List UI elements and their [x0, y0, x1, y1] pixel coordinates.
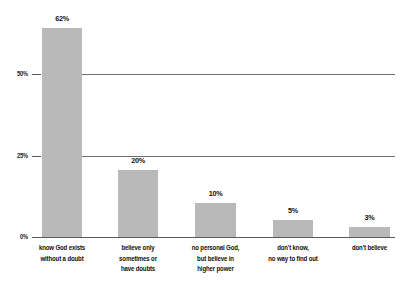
bar-value-3: 10%	[197, 189, 234, 198]
bar-value-5: 3%	[351, 213, 388, 222]
bar-believe-only-sometimes	[118, 170, 158, 237]
category-label-3-line-3: higher power	[167, 264, 264, 275]
gridline-50	[42, 74, 395, 75]
bar-value-4: 5%	[275, 206, 311, 215]
category-label-5: don't believe	[321, 243, 411, 254]
bar-value-1: 62%	[44, 14, 80, 23]
axis-baseline	[32, 237, 395, 238]
category-label-4-line-2: no way to find out	[244, 254, 342, 265]
plot-area: 0% 25% 50% 62% know God exists without a…	[0, 0, 411, 295]
bar-know-god-exists	[42, 28, 82, 237]
ytick-label-25: 25%	[7, 152, 28, 159]
ytick-label-0: 0%	[7, 233, 28, 240]
ytick-label-50: 50%	[7, 70, 28, 77]
bar-dont-know	[273, 220, 313, 237]
bar-chart: 0% 25% 50% 62% know God exists without a…	[0, 0, 411, 295]
gridline-25	[42, 156, 395, 157]
bar-value-2: 20%	[120, 156, 156, 165]
bar-dont-believe	[349, 227, 390, 237]
ytick-mark-25	[32, 156, 41, 157]
bar-no-personal-god	[195, 203, 236, 237]
category-label-5-line-1: don't believe	[321, 243, 411, 254]
ytick-mark-50	[32, 74, 41, 75]
